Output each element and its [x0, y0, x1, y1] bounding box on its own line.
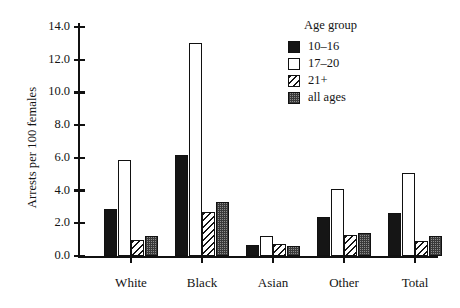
bar [131, 240, 144, 256]
legend-item: 21+ [288, 73, 438, 88]
legend-swatch-icon [288, 92, 300, 104]
y-axis-tick-label: 6.0 [24, 151, 70, 163]
y-axis-tick-label: 14.0 [24, 20, 70, 32]
y-axis-tick [74, 26, 85, 28]
bar [216, 202, 229, 256]
bar [202, 212, 215, 256]
y-axis-tick [74, 255, 85, 257]
y-axis-tick [74, 222, 85, 224]
y-axis-tick [74, 189, 85, 191]
x-axis-tick [201, 256, 203, 263]
legend-item: 17–20 [288, 56, 438, 71]
legend-swatch-icon [288, 41, 300, 53]
legend-item: all ages [288, 90, 438, 105]
x-axis-tick [414, 256, 416, 263]
y-axis-tick-label: 4.0 [24, 184, 70, 196]
bar [260, 236, 273, 256]
x-axis-tick [343, 256, 345, 263]
legend: Age group 10–1617–2021+all ages [288, 18, 438, 107]
bar [358, 233, 371, 256]
x-axis-tick [130, 256, 132, 263]
legend-item-label: 17–20 [308, 56, 339, 71]
bar [429, 236, 442, 256]
legend-swatch-icon [288, 75, 300, 87]
bar [175, 155, 188, 256]
bar [388, 213, 401, 256]
legend-item-label: 10–16 [308, 39, 339, 54]
bar-chart: Arrests per 100 females 0.02.04.06.08.01… [0, 0, 460, 308]
bar [344, 235, 357, 256]
legend-title: Age group [304, 18, 438, 33]
legend-item-label: 21+ [308, 73, 328, 88]
legend-item-label: all ages [308, 90, 346, 105]
y-axis-tick [74, 59, 85, 61]
y-axis-tick-label: 8.0 [24, 118, 70, 130]
bar [331, 189, 344, 256]
y-axis-tick-label: 12.0 [24, 53, 70, 65]
bar [402, 173, 415, 256]
y-axis-tick [74, 91, 85, 93]
bar [287, 246, 300, 256]
legend-item: 10–16 [288, 39, 438, 54]
y-axis-tick [74, 157, 85, 159]
x-axis-tick [272, 256, 274, 263]
bar [415, 241, 428, 256]
y-axis-tick-label: 0.0 [24, 249, 70, 261]
legend-entries: 10–1617–2021+all ages [288, 39, 438, 105]
bar [145, 236, 158, 256]
bar [246, 245, 259, 256]
bar [118, 160, 131, 257]
legend-swatch-icon [288, 58, 300, 70]
bar [104, 209, 117, 256]
y-axis-tick-label: 10.0 [24, 85, 70, 97]
y-axis-tick-label: 2.0 [24, 216, 70, 228]
x-axis-category-label: Total [370, 275, 460, 291]
bar [273, 244, 286, 256]
bar [189, 43, 202, 256]
bar [317, 217, 330, 256]
y-axis-tick [74, 124, 85, 126]
